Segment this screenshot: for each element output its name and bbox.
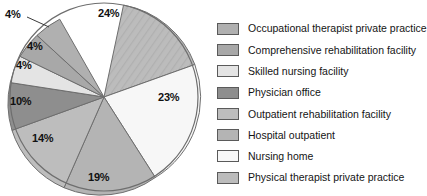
pie-chart-area: 24% 23% 19% 14% 10% 4% 4% 4%	[0, 0, 212, 196]
pie-label-19: 19%	[88, 172, 109, 183]
pie-label-24: 24%	[98, 8, 119, 19]
legend-swatch-icon	[217, 65, 239, 77]
legend-swatch-icon	[217, 129, 239, 141]
legend-item-nursing-home[interactable]: Nursing home	[217, 146, 427, 167]
legend-item-label: Outpatient rehabilitation facility	[248, 109, 391, 120]
legend-swatch-icon	[217, 44, 239, 56]
leader-line-4-occupational	[27, 17, 49, 27]
pie-label-4-skilled-nursing: 4%	[16, 60, 32, 71]
legend-item-skilled-nursing-facility[interactable]: Skilled nursing facility	[217, 61, 427, 82]
pie-label-10: 10%	[10, 96, 31, 107]
legend-item-label: Physician office	[248, 87, 321, 98]
legend-item-physical-therapist-private-practice[interactable]: Physical therapist private practice	[217, 167, 427, 188]
legend-item-hospital-outpatient[interactable]: Hospital outpatient	[217, 124, 427, 145]
legend-item-label: Physical therapist private practice	[248, 172, 404, 183]
pie-label-23: 23%	[158, 92, 179, 103]
pie-chart-figure: 24% 23% 19% 14% 10% 4% 4% 4% Occupationa…	[0, 0, 427, 196]
pie-label-4-comprehensive-rehab: 4%	[27, 41, 43, 52]
pie-label-14: 14%	[32, 133, 53, 144]
legend-item-occupational-therapist-private-practice[interactable]: Occupational therapist private practice	[217, 18, 427, 39]
legend-item-physician-office[interactable]: Physician office	[217, 82, 427, 103]
legend-swatch-icon	[217, 150, 239, 162]
legend-swatch-icon	[217, 23, 239, 35]
legend-item-label: Hospital outpatient	[248, 130, 335, 141]
legend-swatch-icon	[217, 108, 239, 120]
legend-item-outpatient-rehabilitation-facility[interactable]: Outpatient rehabilitation facility	[217, 103, 427, 124]
pie-svg	[0, 0, 212, 196]
legend-item-label: Skilled nursing facility	[248, 66, 348, 77]
legend-swatch-icon	[217, 87, 239, 99]
legend-item-label: Comprehensive rehabilitation facility	[248, 45, 416, 56]
legend-item-label: Nursing home	[248, 151, 313, 162]
chart-legend: Occupational therapist private practice …	[217, 18, 427, 188]
pie-label-4-occupational-therapist: 4%	[5, 9, 21, 20]
legend-swatch-icon	[217, 172, 239, 184]
legend-item-label: Occupational therapist private practice	[248, 23, 427, 34]
legend-item-comprehensive-rehabilitation-facility[interactable]: Comprehensive rehabilitation facility	[217, 39, 427, 60]
